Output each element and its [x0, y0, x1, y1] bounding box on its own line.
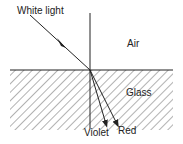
label-violet: Violet — [84, 128, 109, 138]
label-air: Air — [127, 39, 139, 49]
label-white-light: White light — [17, 6, 64, 16]
label-glass: Glass — [126, 88, 152, 98]
label-red: Red — [118, 126, 136, 136]
refraction-diagram — [0, 0, 183, 144]
glass-region — [10, 70, 173, 130]
